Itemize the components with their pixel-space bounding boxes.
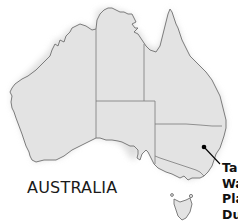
callout-line-1: Ta [222,160,237,175]
mainland-coastline [10,8,226,180]
country-label: AUSTRALIA [27,178,117,197]
location-callout: Ta Wa Pla Du [222,160,238,222]
callout-line-3: Pla [222,191,238,206]
callout-line-2: Wa [222,176,238,191]
island-small [171,194,174,197]
island-small [189,194,192,197]
tasmania [174,198,192,220]
callout-line-4: Du [222,207,238,222]
